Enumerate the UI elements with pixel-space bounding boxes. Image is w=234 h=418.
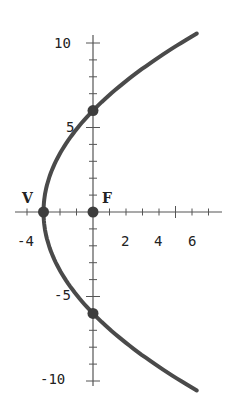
y-tick-label: -10 <box>40 371 65 387</box>
vertex-label: V <box>21 190 34 206</box>
x-tick-label: 6 <box>188 233 196 249</box>
x-tick-label: -4 <box>17 233 34 249</box>
x-tick-label: 2 <box>121 233 129 249</box>
parabola-chart: -4 2 4 6 10 5 -5 -10 V F <box>0 0 234 418</box>
marked-point <box>88 308 99 319</box>
marked-point <box>38 207 49 218</box>
marked-point <box>88 207 99 218</box>
focus-label: F <box>102 190 112 206</box>
y-tick-label: 5 <box>66 119 74 135</box>
x-tick-label: 4 <box>154 233 162 249</box>
y-tick-label: 10 <box>54 35 71 51</box>
marked-point <box>88 105 99 116</box>
y-tick-label: -5 <box>54 287 71 303</box>
